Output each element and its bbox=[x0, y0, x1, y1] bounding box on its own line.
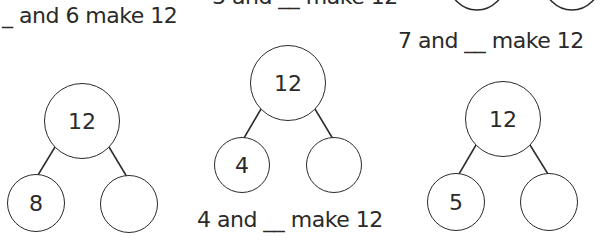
part-circle-right[interactable] bbox=[306, 137, 362, 193]
part-circle-right[interactable] bbox=[100, 175, 158, 233]
prompt-right: 7 and __ make 12 bbox=[398, 28, 584, 53]
part-circle-left: 4 bbox=[214, 137, 270, 193]
part-circle-left: 5 bbox=[427, 173, 485, 231]
part-circle-right[interactable] bbox=[520, 173, 578, 231]
whole-circle: 12 bbox=[465, 81, 541, 157]
prompt-top-left: _ and 6 make 12 bbox=[2, 3, 177, 28]
whole-circle: 12 bbox=[44, 83, 120, 159]
prompt-top-middle: 3 and __ make 12 bbox=[212, 0, 398, 9]
whole-circle: 12 bbox=[250, 45, 326, 121]
prompt-middle: 4 and __ make 12 bbox=[197, 207, 383, 232]
part-circle-left: 8 bbox=[7, 174, 65, 232]
